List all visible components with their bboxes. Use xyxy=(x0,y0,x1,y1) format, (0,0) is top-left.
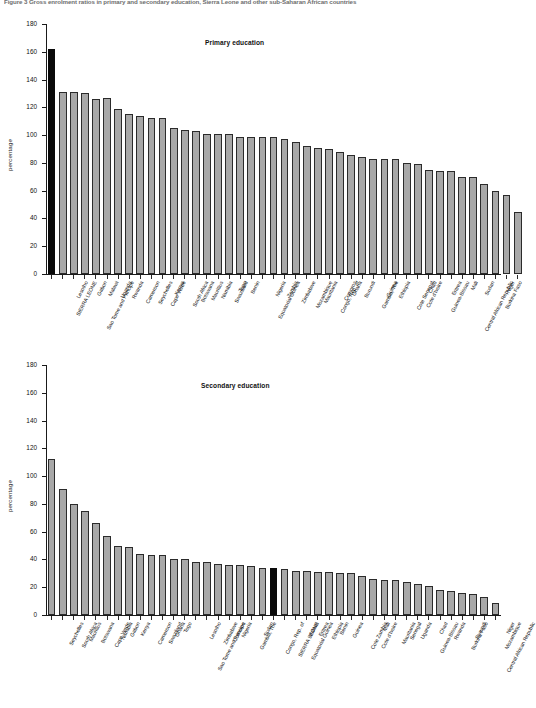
x-axis-tick xyxy=(517,275,518,279)
bar[interactable] xyxy=(203,134,211,274)
bar[interactable] xyxy=(458,177,466,274)
bar[interactable] xyxy=(292,142,300,274)
bar[interactable] xyxy=(425,586,433,615)
bar[interactable] xyxy=(314,572,322,615)
bar[interactable] xyxy=(303,571,311,615)
bar[interactable] xyxy=(403,582,411,615)
bar[interactable] xyxy=(181,130,189,274)
bar[interactable] xyxy=(414,584,422,615)
bar[interactable] xyxy=(81,93,89,274)
y-axis-tick xyxy=(42,107,46,108)
bar[interactable] xyxy=(103,536,111,615)
bar[interactable] xyxy=(325,149,333,274)
bar[interactable] xyxy=(381,580,389,615)
bar[interactable] xyxy=(369,159,377,274)
bar[interactable] xyxy=(114,546,122,615)
bar[interactable] xyxy=(336,152,344,274)
bar[interactable] xyxy=(325,572,333,615)
bar[interactable] xyxy=(125,547,133,615)
bar[interactable] xyxy=(159,555,167,615)
x-axis-tick xyxy=(84,616,85,620)
bar[interactable] xyxy=(392,159,400,274)
bar[interactable] xyxy=(48,49,56,274)
bar[interactable] xyxy=(347,155,355,274)
y-axis-tick xyxy=(42,421,46,422)
x-axis-tick xyxy=(129,275,130,279)
y-axis-tick-label: 0 xyxy=(15,611,37,618)
bar[interactable] xyxy=(347,573,355,615)
bar[interactable] xyxy=(292,571,300,615)
bar[interactable] xyxy=(480,597,488,615)
bar[interactable] xyxy=(436,171,444,274)
bar[interactable] xyxy=(414,164,422,274)
x-axis-tick xyxy=(140,616,141,620)
bar[interactable] xyxy=(247,137,255,275)
bar[interactable] xyxy=(70,504,78,615)
bar[interactable] xyxy=(303,146,311,274)
bar[interactable] xyxy=(425,170,433,274)
bar[interactable] xyxy=(48,459,56,615)
x-axis-tick xyxy=(340,616,341,620)
y-axis-tick-label: 100 xyxy=(15,131,37,138)
bar[interactable] xyxy=(270,568,278,615)
bar[interactable] xyxy=(214,134,222,274)
bar[interactable] xyxy=(159,118,167,274)
bar[interactable] xyxy=(447,591,455,615)
bar[interactable] xyxy=(214,564,222,615)
bar[interactable] xyxy=(492,191,500,274)
bar[interactable] xyxy=(392,580,400,615)
bar[interactable] xyxy=(281,569,289,615)
bar[interactable] xyxy=(59,92,67,274)
bar[interactable] xyxy=(270,137,278,275)
bar[interactable] xyxy=(503,195,511,274)
bar[interactable] xyxy=(192,131,200,274)
y-axis-tick-label: 140 xyxy=(15,417,37,424)
bar[interactable] xyxy=(403,163,411,274)
bar[interactable] xyxy=(314,148,322,274)
bar[interactable] xyxy=(203,562,211,615)
bar[interactable] xyxy=(259,568,267,615)
bar[interactable] xyxy=(225,565,233,615)
bar[interactable] xyxy=(336,573,344,615)
bar[interactable] xyxy=(458,593,466,615)
bar[interactable] xyxy=(281,139,289,274)
bar[interactable] xyxy=(148,118,156,274)
bar[interactable] xyxy=(480,184,488,274)
bar[interactable] xyxy=(59,489,67,615)
x-axis-tick xyxy=(317,275,318,279)
bar[interactable] xyxy=(236,565,244,615)
y-axis-tick xyxy=(42,24,46,25)
bar[interactable] xyxy=(358,157,366,274)
bar[interactable] xyxy=(492,603,500,616)
bar[interactable] xyxy=(369,579,377,615)
bar[interactable] xyxy=(225,134,233,274)
bar[interactable] xyxy=(247,566,255,615)
bar[interactable] xyxy=(181,559,189,615)
bar[interactable] xyxy=(136,116,144,274)
bar[interactable] xyxy=(136,554,144,615)
x-axis-tick xyxy=(428,616,429,620)
bar[interactable] xyxy=(170,128,178,274)
bar[interactable] xyxy=(259,137,267,275)
bar[interactable] xyxy=(170,559,178,615)
bar[interactable] xyxy=(148,555,156,615)
bar[interactable] xyxy=(514,212,522,275)
bar[interactable] xyxy=(436,590,444,615)
bar[interactable] xyxy=(114,109,122,274)
bar[interactable] xyxy=(125,114,133,274)
bar[interactable] xyxy=(236,137,244,275)
bar[interactable] xyxy=(81,511,89,615)
bar[interactable] xyxy=(358,576,366,615)
bar[interactable] xyxy=(469,594,477,615)
bar[interactable] xyxy=(469,177,477,274)
x-axis-tick xyxy=(362,275,363,279)
x-axis-tick xyxy=(473,275,474,279)
bar[interactable] xyxy=(92,523,100,615)
bar[interactable] xyxy=(70,92,78,274)
bar[interactable] xyxy=(103,98,111,274)
bar[interactable] xyxy=(92,99,100,274)
bar[interactable] xyxy=(381,159,389,274)
x-axis-tick xyxy=(417,275,418,279)
bar[interactable] xyxy=(447,171,455,274)
bar[interactable] xyxy=(192,562,200,615)
